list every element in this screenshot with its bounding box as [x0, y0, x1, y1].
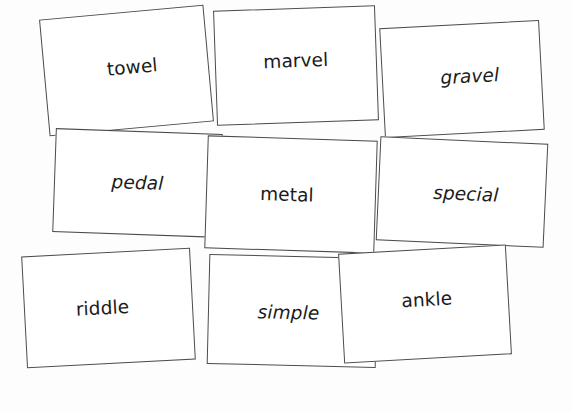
word-card-towel[interactable]: towel	[39, 5, 214, 136]
word-card-riddle[interactable]: riddle	[21, 248, 196, 369]
word-card-marvel[interactable]: marvel	[213, 5, 379, 126]
word-card-gravel[interactable]: gravel	[379, 20, 545, 138]
word-card-label: towel	[106, 56, 158, 79]
word-card-label: riddle	[75, 298, 129, 319]
word-card-metal[interactable]: metal	[204, 135, 377, 253]
word-card-board: towel marvel gravel pedal metal special …	[0, 0, 572, 412]
word-card-label: ankle	[401, 289, 453, 310]
word-card-label: pedal	[111, 173, 163, 193]
word-card-label: simple	[257, 303, 319, 323]
word-card-special[interactable]: special	[376, 136, 549, 248]
word-card-label: marvel	[263, 51, 329, 72]
word-card-label: metal	[260, 185, 314, 205]
word-card-ankle[interactable]: ankle	[338, 244, 512, 363]
word-card-label: special	[433, 183, 499, 204]
word-card-label: gravel	[440, 66, 500, 88]
word-card-pedal[interactable]: pedal	[52, 128, 223, 238]
